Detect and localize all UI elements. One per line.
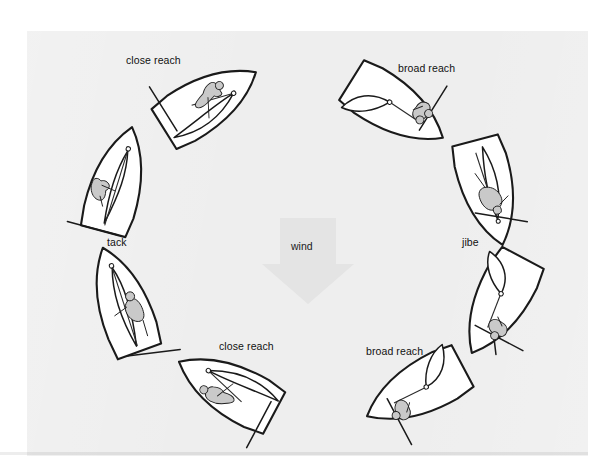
label-broad-reach-lower-right: broad reach [366, 346, 423, 357]
wind-arrow-shape [262, 218, 354, 304]
label-broad-reach-upper-right: broad reach [398, 63, 455, 74]
scan-shadow [0, 452, 592, 455]
boat-close-hauled-lower [78, 235, 180, 372]
boat-close-reach-upper [141, 35, 270, 152]
wind-arrow [262, 218, 354, 304]
label-close-reach-lower: close reach [219, 341, 274, 352]
boat-broad-reach-upper [336, 42, 467, 162]
label-jibe: jibe [462, 237, 479, 248]
boat-jibe [449, 133, 531, 252]
boat-broad-reach-lower-two [354, 341, 484, 457]
boat-close-reach-lower [158, 339, 286, 452]
label-close-reach-upper-left: close reach [126, 55, 181, 66]
wind-label: wind [291, 241, 313, 252]
diagram-page: wind close reach broad reach tack jibe c… [0, 0, 615, 474]
boat-tack [67, 117, 156, 238]
scan-edge-right [588, 0, 615, 474]
boat-broad-reach-lower [444, 243, 562, 374]
label-tack: tack [107, 237, 127, 248]
scan-edge-bottom [0, 456, 615, 474]
